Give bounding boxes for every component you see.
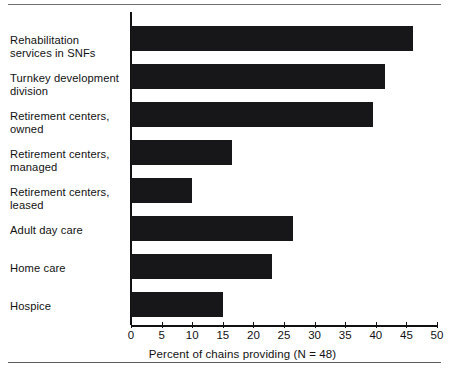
x-tick-label: 45 <box>400 329 413 342</box>
x-tick-mark <box>284 322 285 328</box>
bar-row <box>131 174 441 212</box>
x-tick-label: 40 <box>369 329 382 342</box>
x-axis-title: Percent of chains providing (N = 48) <box>0 348 449 360</box>
x-tick-label: 20 <box>247 329 260 342</box>
x-axis-ticks: 05101520253035404550 <box>0 322 449 346</box>
bar <box>131 216 293 241</box>
category-label-column: Rehabilitation services in SNFsTurnkey d… <box>10 34 126 334</box>
bar-series <box>131 22 441 322</box>
x-tick-label: 25 <box>278 329 291 342</box>
bar-row <box>131 288 441 326</box>
category-label: Adult day care <box>10 224 83 237</box>
bar-row <box>131 60 441 98</box>
bar-row <box>131 136 441 174</box>
x-tick-mark <box>345 322 346 328</box>
x-tick-label: 10 <box>186 329 199 342</box>
bar-row <box>131 212 441 250</box>
bar <box>131 178 192 203</box>
x-tick-mark <box>162 322 163 328</box>
bar-row <box>131 250 441 288</box>
x-tick-mark <box>406 322 407 328</box>
category-label-row: Adult day care <box>10 224 126 262</box>
category-label-row: Retirement centers, leased <box>10 186 126 224</box>
category-label-row: Retirement centers, owned <box>10 110 126 148</box>
category-label-row: Rehabilitation services in SNFs <box>10 34 126 72</box>
x-tick-label: 50 <box>431 329 444 342</box>
bar <box>131 102 373 127</box>
category-label: Retirement centers, owned <box>10 110 110 135</box>
category-label: Retirement centers, leased <box>10 186 110 211</box>
bar <box>131 140 232 165</box>
bar-row <box>131 22 441 60</box>
bottom-divider-rule <box>8 362 441 363</box>
category-label: Rehabilitation services in SNFs <box>10 34 96 59</box>
x-tick-mark <box>131 322 132 328</box>
category-label: Home care <box>10 262 66 275</box>
bar <box>131 254 272 279</box>
bar-row <box>131 98 441 136</box>
x-tick-mark <box>253 322 254 328</box>
bar <box>131 292 223 317</box>
x-tick-mark <box>223 322 224 328</box>
x-tick-mark <box>376 322 377 328</box>
bar <box>131 26 413 51</box>
x-tick-label: 0 <box>128 329 134 342</box>
x-tick-mark <box>192 322 193 328</box>
x-tick-label: 30 <box>308 329 321 342</box>
category-label-row: Retirement centers, managed <box>10 148 126 186</box>
x-tick-label: 15 <box>216 329 229 342</box>
bar-chart-figure: Rehabilitation services in SNFsTurnkey d… <box>0 0 449 374</box>
x-tick-label: 35 <box>339 329 352 342</box>
category-label: Turnkey development division <box>10 72 119 97</box>
x-axis-title-text: Percent of chains providing (N = 48) <box>113 348 336 360</box>
category-label: Hospice <box>10 300 51 313</box>
category-label-row: Home care <box>10 262 126 300</box>
top-divider-rule <box>8 4 441 5</box>
category-label: Retirement centers, managed <box>10 148 110 173</box>
plot-area: Rehabilitation services in SNFsTurnkey d… <box>0 12 449 327</box>
category-label-row: Turnkey development division <box>10 72 126 110</box>
x-tick-mark <box>437 322 438 328</box>
bar <box>131 64 385 89</box>
x-tick-label: 5 <box>158 329 164 342</box>
x-tick-mark <box>315 322 316 328</box>
